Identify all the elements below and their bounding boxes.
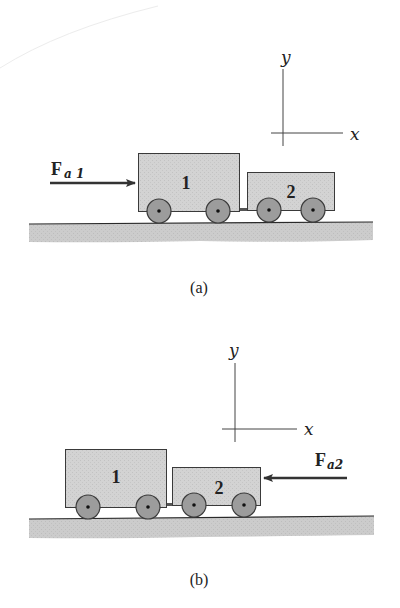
force-subscript: a 1 — [64, 167, 84, 181]
x-axis-label: x — [304, 419, 314, 439]
panel-b: y x 1 2 — [29, 340, 374, 589]
y-axis-label: y — [280, 47, 291, 67]
cart-1-b: 1 — [66, 450, 167, 520]
wheel-icon — [206, 199, 230, 223]
ground-a — [29, 222, 373, 242]
wheel-icon — [232, 493, 256, 517]
force-symbol: F — [51, 159, 62, 179]
wheel-icon — [301, 198, 325, 222]
axes-a: y x — [271, 47, 360, 146]
cart-2-a: 2 — [248, 173, 335, 223]
cart-label: 1 — [112, 467, 121, 487]
cart-coupling — [166, 503, 173, 506]
caption-b: (b) — [190, 571, 209, 589]
x-axis-label: x — [350, 124, 360, 144]
cart-label: 2 — [287, 182, 296, 202]
wheel-icon — [182, 493, 206, 517]
ground-b — [29, 516, 374, 538]
panel-a: y x 1 2 — [29, 47, 373, 297]
force-label: Fa 1 — [51, 159, 84, 181]
cart-1-a: 1 — [139, 154, 240, 224]
diagram-canvas: y x 1 2 — [0, 0, 400, 608]
cart-2-b: 2 — [173, 468, 261, 518]
force-arrow-b: Fa2 — [264, 450, 347, 478]
wheel-icon — [76, 495, 100, 519]
force-symbol: F — [315, 450, 326, 470]
cart-coupling — [239, 208, 248, 211]
y-axis-label: y — [228, 340, 239, 360]
force-label: Fa2 — [315, 450, 343, 472]
ground-surface — [29, 516, 374, 538]
scan-artifact — [0, 6, 158, 68]
ground-surface — [29, 222, 373, 242]
wheel-icon — [136, 495, 160, 519]
cart-label: 2 — [215, 478, 224, 498]
axes-b: y x — [222, 340, 314, 442]
wheel-icon — [147, 199, 171, 223]
wheel-icon — [257, 198, 281, 222]
caption-a: (a) — [190, 279, 208, 297]
cart-label: 1 — [182, 173, 191, 193]
force-subscript: a2 — [327, 458, 343, 472]
force-arrow-a: Fa 1 — [50, 159, 135, 183]
